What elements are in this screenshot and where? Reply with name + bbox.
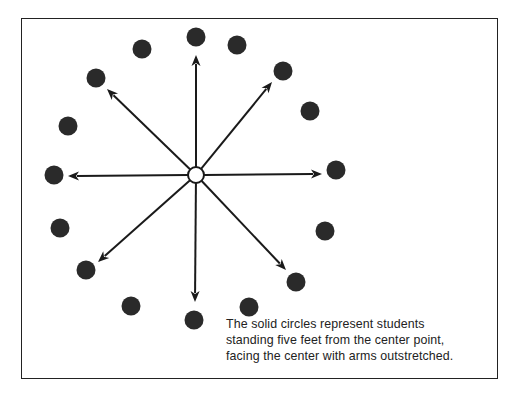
arrow	[68, 171, 188, 180]
arrow	[191, 183, 200, 302]
center-point	[188, 167, 204, 183]
arrow	[204, 170, 322, 179]
student-dot	[77, 261, 96, 280]
student-dot	[301, 102, 320, 121]
arrow	[202, 181, 286, 270]
student-dot	[51, 219, 70, 238]
student-dot	[316, 222, 335, 241]
arrow	[201, 82, 272, 169]
student-dot	[133, 40, 152, 59]
student-dot	[45, 166, 64, 185]
student-dot	[240, 298, 259, 317]
caption-line-1: The solid circles represent students	[226, 316, 496, 332]
student-dot	[185, 311, 204, 330]
arrow	[192, 55, 201, 167]
student-dot	[187, 28, 206, 47]
student-dot	[274, 62, 293, 81]
arrow	[98, 180, 190, 262]
arrow	[107, 89, 190, 169]
caption-line-2: standing five feet from the center point…	[226, 332, 496, 348]
student-dot	[122, 297, 141, 316]
student-dot	[228, 36, 247, 55]
student-dot	[287, 273, 306, 292]
caption-line-3: facing the center with arms outstretched…	[226, 348, 496, 364]
caption: The solid circles represent students sta…	[226, 316, 496, 364]
student-dot	[59, 117, 78, 136]
student-dot	[87, 69, 106, 88]
student-dot	[327, 161, 346, 180]
